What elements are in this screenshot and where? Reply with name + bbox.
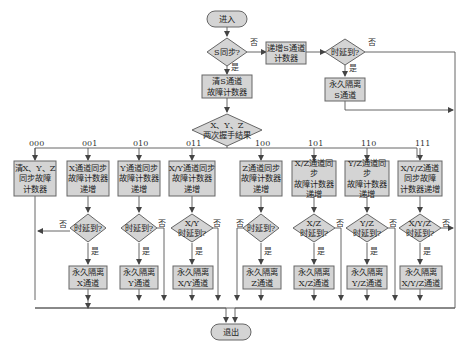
branch-code-011: 011 [186,139,201,148]
branch-111-no: 否 [442,219,450,228]
xyz-result-decision [192,114,262,146]
s-sync-decision [207,38,247,66]
branch-001-yes: 是 [91,247,99,256]
branch-111-yes: 是 [423,247,431,256]
s-sync-yes-label: 是 [231,63,239,72]
branch-011-no: 否 [213,219,221,228]
start-terminal [207,11,247,27]
branch-code-100: 100 [255,139,270,148]
s-sync-no-label: 否 [250,38,258,47]
s-timeout-yes-label: 是 [349,64,357,73]
branch-010-no: 否 [158,219,166,228]
branch-011-yes: 是 [195,247,203,256]
branch-code-001: 001 [82,139,97,148]
end-terminal [211,324,251,340]
s-clear-box [202,75,252,98]
branch-110-no: 否 [389,219,397,228]
s-isolate-box [325,78,365,101]
branch-010-yes: 是 [142,247,150,256]
branch-code-101: 101 [308,139,323,148]
branch-101-yes: 是 [317,247,325,256]
branch-100-yes: 是 [264,247,272,256]
branch-code-111: 111 [415,139,430,148]
flowchart-canvas [0,0,469,354]
branch-101-no: 否 [336,219,344,228]
s-increment-box [266,42,306,64]
branch-110-yes: 是 [370,247,378,256]
branch-001-no: 否 [59,220,67,229]
branch-code-000: 000 [29,139,44,148]
branch-code-110: 110 [361,139,376,148]
branch-code-010: 010 [133,139,148,148]
branch-100-no: 否 [236,219,244,228]
s-timeout-decision [325,39,365,65]
s-timeout-no-label: 否 [368,38,376,47]
